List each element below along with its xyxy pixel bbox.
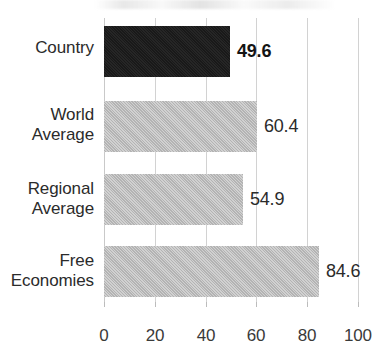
scan-artifact	[95, 0, 335, 9]
category-label-line: World	[0, 105, 94, 125]
category-label-world-average: World Average	[0, 105, 94, 145]
xtick-label-80: 80	[284, 326, 330, 346]
xtick-20	[155, 302, 156, 307]
xtick-label-0: 0	[81, 326, 127, 346]
xtick-0	[104, 302, 105, 307]
bar-world-average[interactable]	[104, 101, 257, 152]
xtick-label-100: 100	[335, 326, 381, 346]
plot-area: 49.6 60.4 54.9 84.6 0 20 40 60 80 100	[104, 18, 358, 302]
bar-free-economies[interactable]	[104, 246, 319, 297]
category-label-regional-average: Regional Average	[0, 179, 94, 219]
xtick-label-60: 60	[233, 326, 279, 346]
bar-fill	[104, 174, 243, 225]
bar-country[interactable]	[104, 26, 230, 77]
bar-chart: Country World Average Regional Average F…	[0, 0, 392, 354]
category-label-line: Economies	[0, 271, 94, 291]
category-label-line: Average	[0, 199, 94, 219]
value-label-world-average: 60.4	[264, 115, 298, 137]
bar-fill	[104, 26, 230, 77]
value-label-country: 49.6	[237, 40, 271, 62]
category-label-line: Regional	[0, 179, 94, 199]
value-label-regional-average: 54.9	[250, 188, 284, 210]
bar-regional-average[interactable]	[104, 174, 243, 225]
bar-fill	[104, 246, 319, 297]
bar-fill	[104, 101, 257, 152]
value-label-free-economies: 84.6	[326, 260, 360, 282]
category-label-line: Country	[0, 38, 94, 58]
xtick-60	[256, 302, 257, 307]
xtick-80	[307, 302, 308, 307]
category-label-line: Free	[0, 251, 94, 271]
category-label-line: Average	[0, 125, 94, 145]
category-label-free-economies: Free Economies	[0, 251, 94, 291]
category-label-country: Country	[0, 38, 94, 58]
xtick-40	[206, 302, 207, 307]
xtick-label-40: 40	[183, 326, 229, 346]
xtick-label-20: 20	[132, 326, 178, 346]
xtick-100	[358, 302, 359, 307]
